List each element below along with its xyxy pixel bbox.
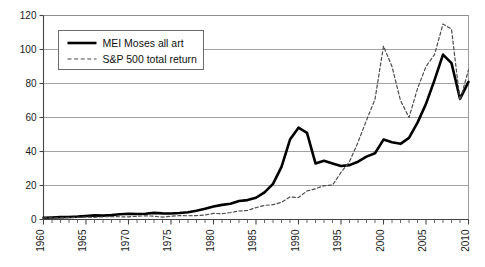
legend-label-2: S&P 500 total return bbox=[103, 53, 198, 65]
line-chart: 020406080100120 196019651970197519801985… bbox=[0, 0, 485, 267]
x-tick-label: 1985 bbox=[247, 229, 258, 252]
chart-legend: MEI Moses all artS&P 500 total return bbox=[59, 31, 204, 70]
y-tick-label: 60 bbox=[25, 112, 37, 123]
x-tick-label: 1995 bbox=[332, 229, 343, 252]
legend-label-1: MEI Moses all art bbox=[103, 37, 184, 49]
x-tick-label: 1990 bbox=[290, 229, 301, 252]
y-tick-label: 0 bbox=[31, 214, 37, 225]
y-tick-label: 40 bbox=[25, 146, 37, 157]
y-axis-tick-labels: 020406080100120 bbox=[20, 10, 37, 225]
x-tick-label: 2000 bbox=[375, 229, 386, 252]
x-tick-label: 1960 bbox=[35, 229, 46, 252]
x-axis-tick-labels: 1960196519701975198019851990199520002005… bbox=[35, 229, 471, 252]
x-tick-label: 1975 bbox=[162, 229, 173, 252]
x-tick-label: 2010 bbox=[460, 229, 471, 252]
x-tick-label: 1970 bbox=[120, 229, 131, 252]
x-tick-label: 1980 bbox=[205, 229, 216, 252]
y-tick-label: 20 bbox=[25, 180, 37, 191]
x-tick-label: 2005 bbox=[417, 229, 428, 252]
x-tick-label: 1965 bbox=[77, 229, 88, 252]
y-tick-label: 120 bbox=[20, 10, 37, 21]
y-tick-label: 100 bbox=[20, 44, 37, 55]
chart-figure: 020406080100120 196019651970197519801985… bbox=[0, 0, 485, 267]
y-tick-label: 80 bbox=[25, 78, 37, 89]
